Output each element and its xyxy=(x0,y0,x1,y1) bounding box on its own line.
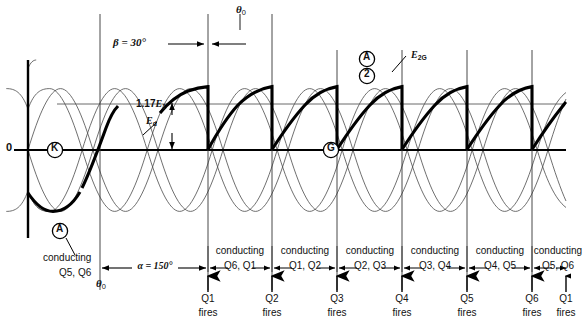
node-marker-a-bottom-label: A xyxy=(56,224,63,235)
conducting-word-1: conducting xyxy=(216,246,264,257)
e2g-subscript: 2G xyxy=(418,54,427,61)
node-marker-2-label: 2 xyxy=(364,69,370,80)
peak-amplitude-subscript: 1 xyxy=(162,103,166,110)
node-marker-a-top-label: A xyxy=(363,52,370,63)
conducting-word-4: conducting xyxy=(411,246,459,257)
conducting-devices-1: Q6, Q1 xyxy=(224,261,256,272)
firing-device-5: Q5 xyxy=(460,294,473,305)
phase-sinusoids-extra xyxy=(6,60,36,109)
e2g-variable: E xyxy=(411,49,418,60)
firing-word-6: fires xyxy=(523,308,542,319)
theta0-bottom-subscript: 0 xyxy=(102,282,106,291)
firing-device-4: Q4 xyxy=(395,294,408,305)
firing-device-6: Q6 xyxy=(525,294,538,305)
conducting-word-2: conducting xyxy=(281,246,329,257)
alpha-label: α = 150° xyxy=(137,261,172,272)
initial-conducting-word: conducting xyxy=(43,253,91,264)
zero-label: 0 xyxy=(6,142,12,154)
node-marker-k-label: K xyxy=(51,143,58,154)
conducting-word-5: conducting xyxy=(476,246,524,257)
conducting-devices-2: Q1, Q2 xyxy=(289,261,321,272)
ed-subscript: d xyxy=(153,120,157,127)
initial-conducting-devices: Q5, Q6 xyxy=(59,268,91,279)
firing-word-1: fires xyxy=(199,308,218,319)
firing-word-3: fires xyxy=(328,308,347,319)
ed-label: Ed xyxy=(146,116,157,127)
theta0-bottom-label: θ0 xyxy=(96,278,106,291)
firing-device-7: Q1 xyxy=(559,294,572,305)
firing-word-2: fires xyxy=(263,308,282,319)
firing-device-1: Q1 xyxy=(201,294,214,305)
firing-device-3: Q3 xyxy=(330,294,343,305)
e2g-leader xyxy=(392,56,406,72)
peak-amplitude-value: 1.17 xyxy=(136,98,155,109)
firing-word-5: fires xyxy=(458,308,477,319)
theta0-top-subscript: 0 xyxy=(242,8,246,17)
peak-amplitude-label: 1.17E1 xyxy=(136,99,166,110)
conducting-word-3: conducting xyxy=(346,246,394,257)
ed-variable: E xyxy=(146,115,153,126)
theta0-top-label: θ0 xyxy=(236,4,246,17)
conducting-devices-6: Q5, Q6 xyxy=(542,261,574,272)
node-marker-g-label: G xyxy=(327,143,335,154)
firing-arrows xyxy=(208,276,566,292)
conducting-devices-5: Q4, Q5 xyxy=(484,261,516,272)
e2g-label: E2G xyxy=(411,50,427,61)
firing-device-2: Q2 xyxy=(265,294,278,305)
conducting-word-6: conducting xyxy=(534,246,582,257)
firing-word-4: fires xyxy=(393,308,412,319)
conducting-devices-4: Q3, Q4 xyxy=(419,261,451,272)
conducting-devices-3: Q2, Q3 xyxy=(354,261,386,272)
firing-word-7: fires xyxy=(557,308,576,319)
beta-label: β = 30° xyxy=(113,37,146,49)
